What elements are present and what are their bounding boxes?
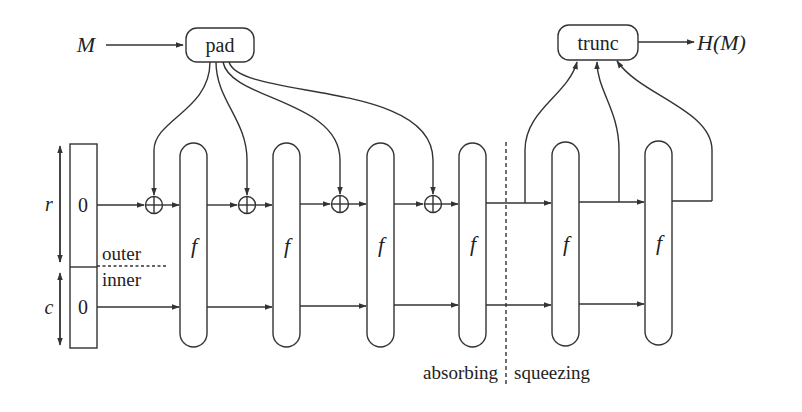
pad-label: pad: [206, 34, 235, 57]
xor-2: [239, 197, 256, 214]
f-label-2: f: [284, 233, 293, 258]
capacity-init-value: 0: [78, 296, 88, 318]
pad-to-xor-2: [216, 62, 247, 195]
f-label-1: f: [191, 233, 200, 258]
capacity-label: c: [45, 296, 54, 318]
f-label-4: f: [470, 231, 479, 256]
sponge-diagram: M pad trunc H(M) r c 0 0 outer inner f f…: [0, 0, 802, 412]
output-label: H(M): [696, 30, 746, 55]
input-label: M: [76, 32, 97, 57]
rate-label: r: [45, 193, 53, 215]
rate-init-value: 0: [78, 194, 88, 216]
squeeze-output-3: [617, 61, 712, 201]
phase-absorbing-label: absorbing: [423, 362, 498, 383]
trunc-label: trunc: [577, 32, 618, 54]
xor-3: [332, 196, 349, 213]
pad-to-xor-1: [154, 62, 210, 195]
phase-squeezing-label: squeezing: [514, 362, 590, 383]
squeeze-output-2: [597, 62, 619, 202]
xor-4: [425, 196, 442, 213]
f-label-3: f: [378, 232, 387, 257]
f-label-5: f: [563, 231, 572, 256]
squeeze-output-1: [525, 62, 577, 203]
inner-label: inner: [102, 269, 142, 290]
xor-1: [146, 197, 163, 214]
f-label-6: f: [656, 230, 665, 255]
outer-label: outer: [102, 243, 142, 264]
pad-to-xor-4: [229, 62, 433, 194]
